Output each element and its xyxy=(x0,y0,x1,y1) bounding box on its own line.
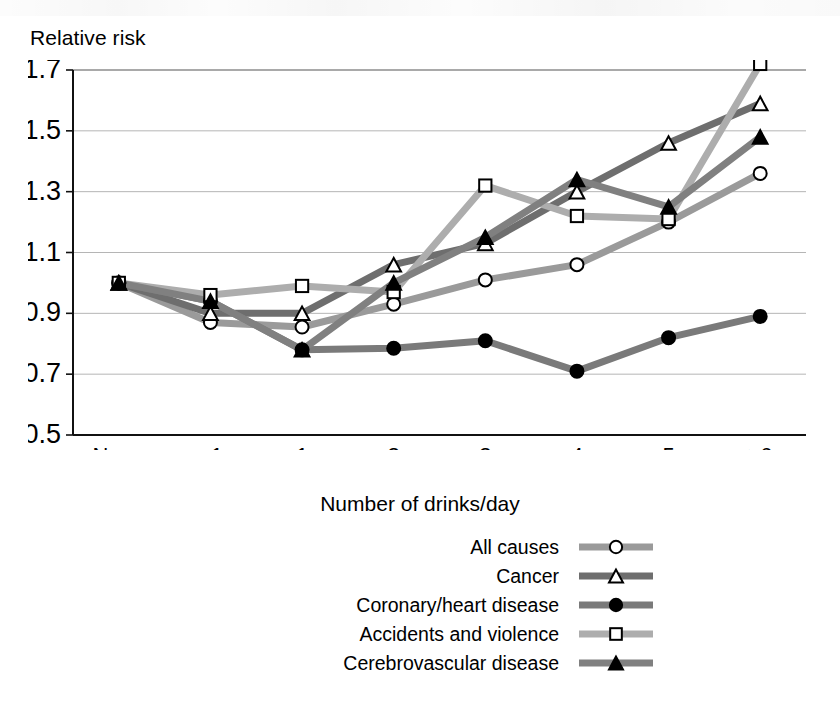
legend-swatch xyxy=(577,594,655,616)
data-point-marker xyxy=(387,342,400,355)
y-tick-label: 1.3 xyxy=(28,176,61,206)
x-tick-label: 2 xyxy=(388,443,400,450)
legend-label: Coronary/heart disease xyxy=(185,594,577,617)
data-point-marker xyxy=(570,365,583,378)
data-point-marker xyxy=(296,280,308,292)
x-tick-label: 4 xyxy=(571,443,583,450)
data-point-marker xyxy=(610,541,622,553)
scan-noise-band xyxy=(0,0,840,16)
data-point-marker xyxy=(754,167,767,180)
data-point-marker xyxy=(571,210,583,222)
chart-legend: All causesCancerCoronary/heart diseaseAc… xyxy=(0,534,840,676)
data-point-marker xyxy=(296,321,309,334)
x-tick-label: None xyxy=(93,443,146,450)
legend-swatch xyxy=(577,536,655,558)
x-axis-title: Number of drinks/day xyxy=(0,492,840,516)
legend-item[interactable]: Accidents and violence xyxy=(185,621,655,647)
legend-label: Accidents and violence xyxy=(185,623,577,646)
y-tick-label: 0.7 xyxy=(28,358,61,388)
y-tick-label: 1.7 xyxy=(28,60,61,84)
data-point-marker xyxy=(387,298,400,311)
y-tick-label: 1.1 xyxy=(28,237,61,267)
plot-area: 1.71.51.31.10.90.70.5None<112345≥6 xyxy=(28,60,818,450)
legend-label: Cerebrovascular disease xyxy=(185,652,577,675)
x-tick-label: 5 xyxy=(662,443,674,450)
legend-item[interactable]: Coronary/heart disease xyxy=(185,592,655,618)
relative-risk-line-chart: 1.71.51.31.10.90.70.5None<112345≥6 xyxy=(28,60,818,450)
legend-item[interactable]: Cancer xyxy=(185,563,655,589)
legend-item[interactable]: All causes xyxy=(185,534,655,560)
x-tick-label: ≥6 xyxy=(748,443,772,450)
x-tick-label: 1 xyxy=(296,443,308,450)
legend-swatch xyxy=(577,565,655,587)
x-tick-label: <1 xyxy=(198,443,223,450)
legend-label: Cancer xyxy=(185,565,577,588)
data-point-marker xyxy=(754,310,767,323)
legend-label: All causes xyxy=(185,536,577,559)
data-point-marker xyxy=(662,213,674,225)
data-point-marker xyxy=(479,179,491,191)
data-point-marker xyxy=(610,599,622,611)
legend-swatch xyxy=(577,623,655,645)
chart-page: Relative risk 1.71.51.31.10.90.70.5None<… xyxy=(0,0,840,728)
y-tick-label: 0.9 xyxy=(28,297,61,327)
data-point-marker xyxy=(570,258,583,271)
y-axis-title: Relative risk xyxy=(30,26,146,50)
legend-swatch xyxy=(577,652,655,674)
data-point-marker xyxy=(479,273,492,286)
y-tick-label: 1.5 xyxy=(28,115,61,145)
x-tick-label: 3 xyxy=(479,443,491,450)
data-point-marker xyxy=(610,628,622,640)
data-point-marker xyxy=(754,60,766,70)
data-point-marker xyxy=(479,334,492,347)
y-tick-label: 0.5 xyxy=(28,419,61,449)
legend-item[interactable]: Cerebrovascular disease xyxy=(185,650,655,676)
data-point-marker xyxy=(662,331,675,344)
